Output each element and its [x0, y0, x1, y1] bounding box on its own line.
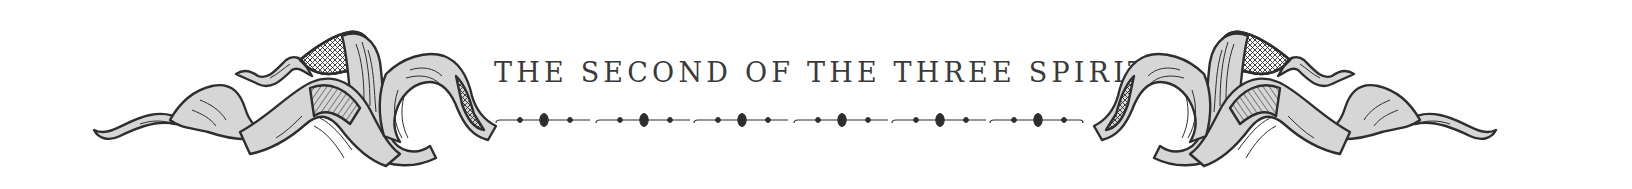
ornamental-divider — [494, 108, 1094, 132]
chapter-title: THE SECOND OF THE THREE SPIRITS — [494, 56, 1094, 90]
divider-segment — [496, 114, 590, 127]
left-ribbon-icon — [80, 20, 500, 170]
right-ribbon-icon — [1090, 20, 1510, 170]
